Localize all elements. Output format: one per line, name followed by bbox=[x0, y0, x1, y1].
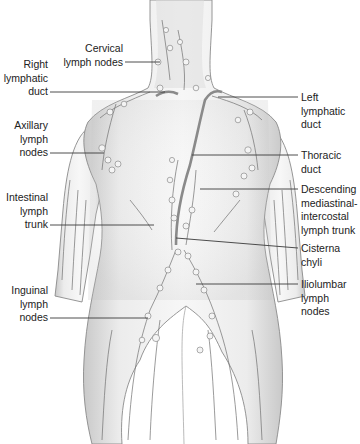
label-inguinal-lymph-nodes: Inguinal lymph nodes bbox=[0, 284, 48, 325]
label-cervical-lymph-nodes: Cervical lymph nodes bbox=[60, 42, 123, 69]
lymphatic-diagram: Cervical lymph nodes Right lymphatic duc… bbox=[0, 0, 360, 444]
label-cisterna-chyli: Cisterna chyli bbox=[301, 242, 360, 269]
label-left-lymphatic-duct: Left lymphatic duct bbox=[301, 91, 360, 132]
label-axillary-lymph-nodes: Axillary lymph nodes bbox=[0, 119, 48, 160]
label-iliolumbar-lymph-nodes: Iliolumbar lymph nodes bbox=[301, 278, 360, 319]
label-descending-mediastinal-intercostal-lymph-trunk: Descending mediastinal- intercostal lymp… bbox=[301, 183, 360, 237]
label-thoracic-duct: Thoracic duct bbox=[301, 149, 360, 176]
label-intestinal-lymph-trunk: Intestinal lymph trunk bbox=[0, 191, 48, 232]
label-right-lymphatic-duct: Right lymphatic duct bbox=[0, 58, 48, 99]
